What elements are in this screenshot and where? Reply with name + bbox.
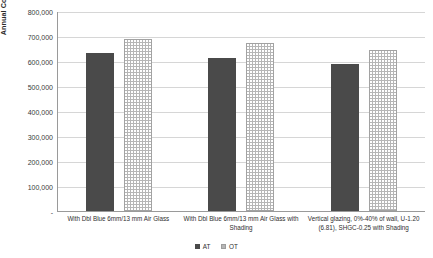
x-axis-labels: With Dbl Blue 6mm/13 mm Air Glass With D… bbox=[57, 215, 425, 232]
bar-ot[interactable] bbox=[124, 39, 152, 212]
bar-chart: Annual Cooling Consumption (kWh) 800,000… bbox=[0, 0, 433, 258]
y-tick-label: 700,000 bbox=[5, 34, 53, 41]
y-tick-label: 800,000 bbox=[5, 9, 53, 16]
legend-label: AT bbox=[203, 243, 211, 250]
bar-at[interactable] bbox=[331, 64, 359, 211]
bar-group bbox=[58, 12, 180, 211]
x-axis-label: With Dbl Blue 6mm/13 mm Air Glass with S… bbox=[180, 215, 303, 232]
bar-ot[interactable] bbox=[369, 50, 397, 211]
bar-group bbox=[180, 12, 302, 211]
y-tick-label: 100,000 bbox=[5, 184, 53, 191]
y-axis-ticks: 800,000 700,000 600,000 500,000 400,000 … bbox=[0, 12, 53, 212]
legend-item-at[interactable]: AT bbox=[195, 243, 210, 250]
bar-at[interactable] bbox=[208, 58, 236, 211]
bar-group bbox=[303, 12, 425, 211]
y-tick-label: 600,000 bbox=[5, 59, 53, 66]
x-axis-label: Vertical glazing, 0%-40% of wall, U-1.20… bbox=[302, 215, 425, 232]
x-axis-label: With Dbl Blue 6mm/13 mm Air Glass bbox=[57, 215, 180, 232]
y-tick-label: 300,000 bbox=[5, 134, 53, 141]
plot-area bbox=[57, 12, 425, 212]
y-tick-label: 400,000 bbox=[5, 109, 53, 116]
legend-label: OT bbox=[229, 243, 238, 250]
legend-swatch-icon bbox=[221, 244, 226, 249]
y-tick-label: - bbox=[5, 209, 53, 216]
bar-at[interactable] bbox=[86, 53, 114, 211]
legend-swatch-icon bbox=[195, 244, 200, 249]
bar-groups bbox=[58, 12, 425, 211]
bar-ot[interactable] bbox=[246, 43, 274, 211]
chart-legend: AT OT bbox=[0, 243, 433, 250]
y-tick-label: 200,000 bbox=[5, 159, 53, 166]
y-tick-label: 500,000 bbox=[5, 84, 53, 91]
legend-item-ot[interactable]: OT bbox=[221, 243, 237, 250]
